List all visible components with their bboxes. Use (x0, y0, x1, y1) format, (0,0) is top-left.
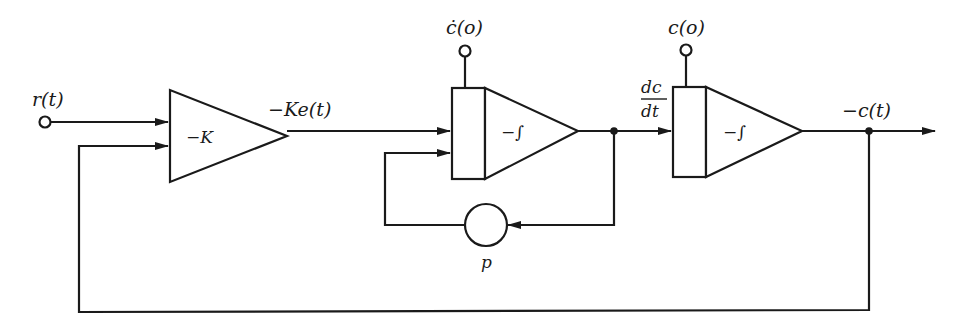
integrator-2: −∫ c(o) (668, 16, 802, 177)
coefficient-p: p (465, 204, 507, 272)
integrator-1: −∫ ċ(o) (446, 16, 578, 179)
block-diagram: r(t) −K −Ke(t) −∫ ċ(o) p dc dt −∫ (0, 0, 963, 327)
derivative-label: dc dt (641, 77, 667, 121)
input-label: r(t) (32, 88, 64, 110)
integrator-2-ic-terminal (681, 45, 692, 56)
derivative-numerator: dc (641, 77, 662, 97)
coefficient-potentiometer-circle (465, 204, 507, 246)
integrator-1-label: −∫ (501, 122, 524, 142)
integrator-1-input-box (452, 88, 485, 179)
gain-output-label: −Ke(t) (268, 98, 331, 120)
input-terminal: r(t) (32, 88, 168, 128)
integrator-2-triangle (706, 87, 802, 177)
output-label: −c(t) (842, 99, 891, 121)
gain-block: −K −Ke(t) (170, 90, 331, 182)
input-terminal-circle (40, 117, 51, 128)
coefficient-label: p (481, 252, 492, 272)
integrator-1-triangle (485, 88, 578, 179)
integrator-1-ic-label: ċ(o) (446, 16, 483, 38)
integrator-2-input-box (673, 87, 706, 177)
integrator-1-ic-terminal (460, 46, 471, 57)
integrator-2-ic-label: c(o) (668, 16, 705, 38)
integrator-2-label: −∫ (723, 122, 746, 142)
derivative-denominator: dt (641, 101, 659, 121)
gain-label: −K (186, 127, 214, 147)
